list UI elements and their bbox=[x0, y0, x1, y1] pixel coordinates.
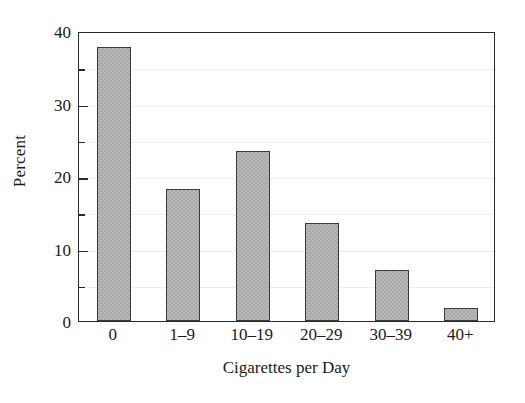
bar bbox=[166, 189, 200, 321]
gridline bbox=[79, 251, 494, 252]
bar bbox=[305, 223, 339, 321]
y-axis-minor-tick bbox=[79, 142, 85, 144]
y-axis-minor-tick bbox=[79, 214, 85, 216]
x-axis-tick-label: 20–29 bbox=[300, 326, 343, 343]
plot-area bbox=[78, 32, 495, 322]
y-axis-tick-label: 40 bbox=[36, 24, 78, 41]
y-axis-minor-tick bbox=[79, 287, 85, 289]
x-axis-tick-label: 1–9 bbox=[170, 326, 196, 343]
y-axis-tick-label: 10 bbox=[36, 241, 78, 258]
x-axis-tick-label: 10–19 bbox=[231, 326, 274, 343]
y-axis-major-tick bbox=[79, 251, 88, 253]
bar bbox=[97, 47, 131, 321]
gridline bbox=[79, 287, 494, 288]
bar bbox=[375, 270, 409, 321]
gridline bbox=[79, 214, 494, 215]
x-axis-tick-label: 0 bbox=[109, 326, 118, 343]
gridline bbox=[79, 69, 494, 70]
bar bbox=[236, 151, 270, 321]
y-axis-tick-label: 20 bbox=[36, 169, 78, 186]
x-axis-title: Cigarettes per Day bbox=[78, 358, 495, 378]
gridline bbox=[79, 178, 494, 179]
gridline bbox=[79, 106, 494, 107]
x-axis-tick-label: 30–39 bbox=[370, 326, 413, 343]
bar-chart-figure: Percent 010203040 01–910–1920–2930–3940+… bbox=[0, 0, 525, 403]
y-axis-major-tick bbox=[79, 106, 88, 108]
bar bbox=[444, 308, 478, 321]
x-axis-tick-label: 40+ bbox=[447, 326, 474, 343]
y-axis-tick-label: 30 bbox=[36, 96, 78, 113]
y-axis-tick-label: 0 bbox=[36, 314, 78, 331]
y-axis-title: Percent bbox=[0, 0, 40, 322]
y-axis-title-text: Percent bbox=[10, 135, 30, 187]
y-axis-major-tick bbox=[79, 178, 88, 180]
x-axis-tick-labels: 01–910–1920–2930–3940+ bbox=[78, 326, 495, 352]
y-axis-minor-tick bbox=[79, 69, 85, 71]
y-axis-tick-labels: 010203040 bbox=[36, 0, 78, 403]
gridline bbox=[79, 142, 494, 143]
